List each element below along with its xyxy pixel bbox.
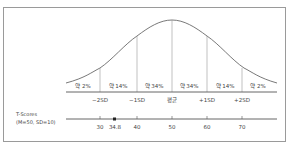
sd-tick-label: +1SD: [199, 97, 215, 103]
t-score-title: T-Scores: [15, 111, 37, 117]
t-tick-label: 30: [97, 124, 104, 130]
region-label: 약 34%: [145, 82, 164, 90]
t-tick-label: 40: [134, 124, 141, 130]
region-label: 약 14%: [216, 82, 235, 90]
t-tick-label: 50: [169, 124, 176, 130]
normal-distribution-chart: 약 2% 약 14% 약 34% 약 34% 약 14% 약 2% −2SD −…: [0, 0, 292, 145]
region-label: 약 14%: [109, 82, 128, 90]
t-score-subtitle: (M=50, SD=10): [16, 119, 56, 125]
t-tick-label: 34.8: [109, 124, 122, 130]
normal-curve: [66, 20, 277, 83]
region-label: 약 34%: [180, 82, 199, 90]
region-label: 약 2%: [250, 82, 265, 90]
region-label: 약 2%: [75, 82, 90, 90]
t-tick-label: 70: [239, 124, 246, 130]
marked-point: [113, 118, 116, 121]
sd-tick-label: 평균: [167, 97, 177, 103]
sd-tick-label: −1SD: [129, 97, 145, 103]
t-tick-label: 60: [204, 124, 211, 130]
sd-tick-label: +2SD: [234, 97, 250, 103]
sd-tick-label: −2SD: [92, 97, 108, 103]
